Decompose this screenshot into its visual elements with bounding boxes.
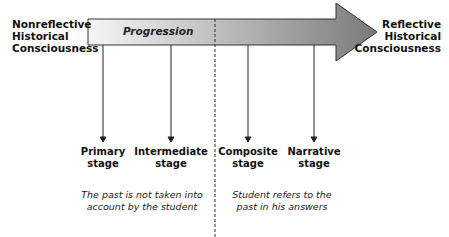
left-label: Nonreflective Historical Consciousness (12, 18, 99, 54)
right-label: Reflective Historical Consciousness (354, 18, 441, 54)
note-left: The past is not taken intoaccount by the… (72, 189, 212, 213)
progression-label: Progression (123, 25, 193, 37)
note-right: Student refers to thepast in his answers (212, 189, 352, 213)
stage-narrative: Narrativestage (269, 146, 359, 170)
